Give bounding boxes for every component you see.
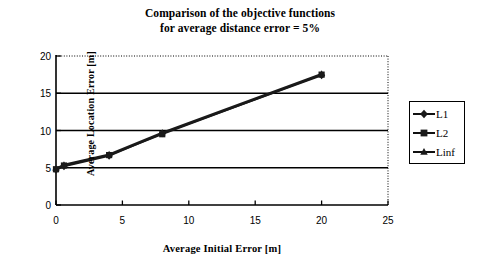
y-tick-label: 15	[40, 88, 51, 99]
y-tick-label: 20	[40, 51, 51, 62]
x-tick-label: 0	[53, 215, 59, 226]
legend-item-label: L2	[436, 128, 448, 139]
x-tick-label: 5	[120, 215, 126, 226]
chart-title: Comparison of the objective functions fo…	[60, 6, 420, 36]
y-tick-label: 0	[45, 200, 51, 211]
series-line	[56, 74, 322, 169]
y-tick-label: 10	[40, 125, 51, 136]
triangle-marker-icon	[413, 145, 435, 159]
legend-item-l1[interactable]: L1	[413, 105, 465, 123]
y-tick-label: 5	[45, 162, 51, 173]
diamond-marker-icon	[413, 107, 435, 121]
chart-title-line-2: for average distance error = 5%	[60, 21, 420, 36]
square-marker-icon	[413, 126, 435, 140]
chart-title-line-1: Comparison of the objective functions	[145, 7, 335, 19]
x-axis-title: Average Initial Error [m]	[56, 243, 388, 254]
legend-item-linf[interactable]: Linf	[413, 143, 465, 161]
plot-area: 05101520 0510152025 Average Location Err…	[56, 56, 388, 205]
legend-item-l2[interactable]: L2	[413, 124, 465, 142]
chart-legend: L1L2Linf	[409, 101, 465, 164]
y-axis-title: Average Location Error [m]	[85, 34, 96, 194]
x-tick-label: 15	[250, 215, 261, 226]
plot-canvas	[56, 56, 388, 205]
x-tick-label: 20	[316, 215, 327, 226]
legend-item-label: L1	[436, 109, 448, 120]
chart-figure: Comparison of the objective functions fo…	[0, 0, 482, 269]
legend-item-label: Linf	[436, 147, 455, 158]
x-tick-label: 25	[382, 215, 393, 226]
x-tick-label: 10	[183, 215, 194, 226]
